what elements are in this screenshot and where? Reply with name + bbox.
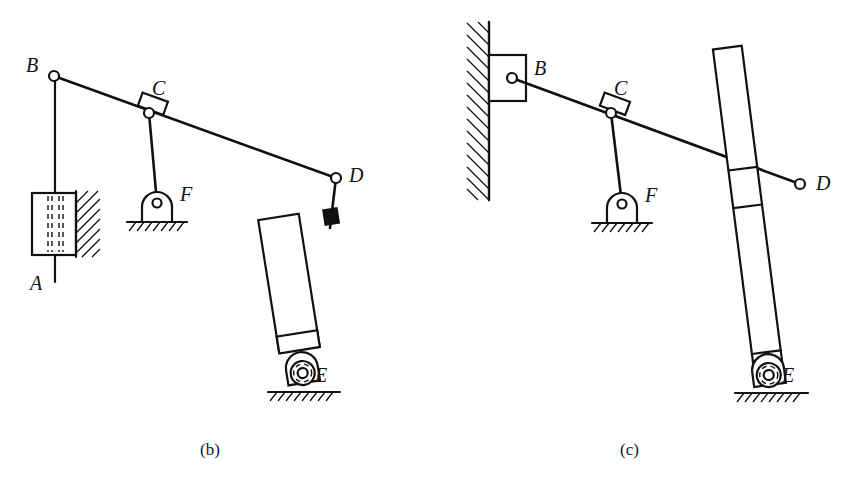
joint-f bbox=[618, 200, 627, 209]
caption-panel-c: (c) bbox=[620, 440, 639, 459]
label-c-point-e: E bbox=[781, 364, 794, 386]
panel-b: B C D F E A (b) bbox=[26, 54, 364, 459]
wall-hatching-b bbox=[76, 191, 100, 257]
ground-hatching-f bbox=[129, 222, 184, 231]
label-b-point-b: B bbox=[26, 54, 38, 76]
hydraulic-cylinder-de bbox=[258, 214, 325, 388]
ground-hatching-e bbox=[737, 393, 800, 402]
link-bd bbox=[54, 76, 336, 178]
joint-c bbox=[606, 108, 616, 118]
joint-b bbox=[507, 73, 517, 83]
joint-e bbox=[297, 367, 308, 378]
link-cf bbox=[611, 113, 622, 204]
label-c-point-d: D bbox=[815, 172, 831, 194]
ground-hatching-e bbox=[270, 392, 333, 401]
wall-hatching-c bbox=[467, 22, 489, 200]
label-b-point-d: D bbox=[348, 164, 364, 186]
ground-hatching-f bbox=[594, 223, 649, 232]
slider-block-b bbox=[32, 193, 76, 255]
joint-d bbox=[795, 179, 805, 189]
caption-panel-b: (b) bbox=[200, 440, 220, 459]
joint-b bbox=[49, 71, 59, 81]
figure-root: B C D F E A (b) bbox=[0, 0, 861, 498]
panel-c: B C D F E (c) bbox=[467, 22, 831, 459]
label-b-point-a: A bbox=[28, 272, 43, 294]
joint-e bbox=[763, 369, 774, 380]
bar-de bbox=[711, 46, 786, 389]
label-c-point-b: B bbox=[534, 57, 546, 79]
joint-c bbox=[144, 108, 154, 118]
link-cf bbox=[149, 113, 157, 203]
label-b-point-e: E bbox=[314, 364, 327, 386]
label-b-point-f: F bbox=[179, 183, 193, 205]
mechanism-diagram: B C D F E A (b) bbox=[0, 0, 861, 498]
joint-d bbox=[331, 173, 341, 183]
label-b-point-c: C bbox=[152, 77, 166, 99]
joint-f bbox=[153, 199, 162, 208]
label-c-point-c: C bbox=[614, 77, 628, 99]
piston-head bbox=[323, 208, 339, 225]
label-c-point-f: F bbox=[644, 184, 658, 206]
